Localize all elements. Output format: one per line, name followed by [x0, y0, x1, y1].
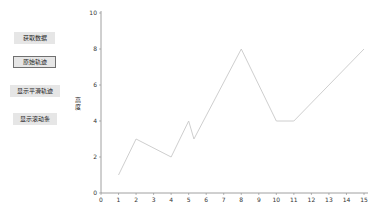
- x-tick-label: 4: [169, 196, 173, 203]
- x-tick-label: 8: [239, 196, 243, 203]
- x-tick-label: 13: [325, 196, 333, 203]
- x-tick-label: 15: [360, 196, 368, 203]
- x-tick-label: 7: [222, 196, 226, 203]
- x-tick-label: 10: [273, 196, 281, 203]
- x-tick-label: 14: [343, 196, 351, 203]
- series-line: [119, 49, 364, 175]
- line-chart: 01234567891011121314150246810: [0, 0, 384, 216]
- x-tick-label: 11: [290, 196, 298, 203]
- x-tick-label: 2: [134, 196, 138, 203]
- x-tick-label: 5: [187, 196, 191, 203]
- x-tick-label: 12: [308, 196, 316, 203]
- y-tick-label: 10: [89, 9, 97, 16]
- y-tick-label: 2: [93, 153, 97, 160]
- y-tick-label: 6: [93, 81, 97, 88]
- x-tick-label: 0: [99, 196, 103, 203]
- x-tick-label: 9: [257, 196, 261, 203]
- y-tick-label: 4: [93, 117, 97, 124]
- y-tick-label: 0: [93, 189, 97, 196]
- x-tick-label: 3: [152, 196, 156, 203]
- y-tick-label: 8: [93, 45, 97, 52]
- x-tick-label: 6: [204, 196, 208, 203]
- x-tick-label: 1: [117, 196, 121, 203]
